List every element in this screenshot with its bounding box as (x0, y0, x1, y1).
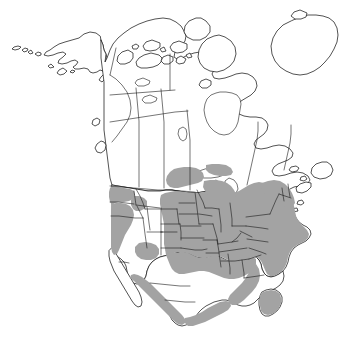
islet-vancouver-island (95, 141, 106, 153)
islet-aleutian-1 (12, 46, 21, 50)
islet-aleutian-2 (22, 48, 28, 52)
range-yucatan (259, 290, 281, 315)
range-map-figure (0, 0, 363, 349)
islet-queen-charlotte (92, 118, 100, 126)
islet-aleutian-4 (35, 52, 41, 56)
islet-aleutian-5 (48, 64, 54, 68)
islet-baffin-island (198, 35, 236, 72)
islet-newfoundland (311, 162, 333, 179)
landmass-layer (12, 10, 338, 326)
landmass-alaska (44, 32, 108, 82)
islet-ellesmere-island (184, 18, 210, 40)
islet-kodiak (57, 68, 67, 75)
islet-aleutian-3 (28, 50, 33, 54)
islet-anticosti (289, 166, 299, 172)
north-america-map (0, 0, 363, 349)
islet-pribilof (70, 70, 75, 73)
islet-greenland-north (291, 10, 307, 19)
landmass-greenland (271, 15, 338, 75)
islet-cape-cod (297, 200, 304, 205)
